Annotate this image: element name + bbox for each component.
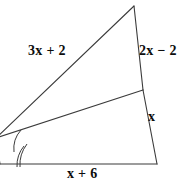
geometry-figure: 3x + 2 2x − 2 x x + 6: [0, 0, 189, 193]
label-side-x-plus-6: x + 6: [67, 167, 97, 181]
triangle-diagram-svg: [0, 0, 189, 193]
side-3x-plus-2-line: [0, 6, 134, 138]
label-side-3x-plus-2: 3x + 2: [28, 44, 66, 58]
side-x-line: [143, 90, 157, 164]
angle-arc-upper-single: [14, 130, 21, 152]
label-side-2x-minus-2: 2x − 2: [139, 44, 177, 58]
label-side-x: x: [148, 110, 155, 124]
